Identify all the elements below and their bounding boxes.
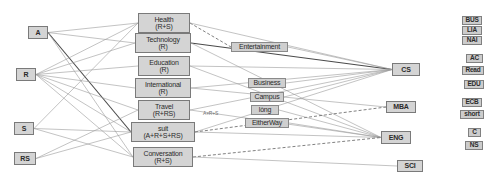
node-label-secondary: (R+RS) <box>153 110 175 117</box>
node-label-primary: Travel <box>155 103 173 110</box>
node-label: short <box>464 111 479 118</box>
node-label: R <box>24 71 29 78</box>
edge-health-to-CS <box>190 23 392 70</box>
node-label-primary: Health <box>154 16 173 23</box>
dest-node-cs[interactable]: CS <box>392 63 420 76</box>
edge-technology-to-CS <box>191 43 392 70</box>
edge-annotation-suit-edge-note: A+R+S <box>203 110 218 116</box>
middle-node-suit[interactable]: suit(A+R+S+RS) <box>131 122 195 142</box>
edge-business-to-CS <box>286 70 392 84</box>
edge-S-to-conversation <box>34 129 133 158</box>
middle-label-entertainment[interactable]: Entertainment <box>231 42 288 52</box>
node-label: EitherWay <box>252 119 282 126</box>
edge-campus-to-CS <box>284 70 392 98</box>
node-label: EDU <box>467 81 480 88</box>
edge-R-to-suit <box>36 75 131 133</box>
edge-international-to-CS <box>191 70 392 89</box>
node-label: AC <box>470 55 479 62</box>
legend-item-nai[interactable]: NAI <box>462 36 482 45</box>
middle-label-long[interactable]: lòng <box>251 105 279 115</box>
source-node-s[interactable]: S <box>14 122 34 135</box>
legend-item-ns[interactable]: NS <box>465 141 483 150</box>
node-label-primary: suit <box>158 125 168 132</box>
legend-item-lia[interactable]: LIA <box>462 26 482 35</box>
edge-R-to-education <box>36 66 138 75</box>
edge-conversation-to-ENG <box>193 138 381 158</box>
dest-node-eng[interactable]: ENG <box>381 131 411 144</box>
node-label: ENG <box>389 134 404 141</box>
node-label-secondary: (R) <box>158 43 167 50</box>
edge-S-to-health <box>34 23 138 129</box>
edge-layer <box>0 0 489 185</box>
middle-node-conversation[interactable]: Conversation(R+S) <box>133 147 193 167</box>
edge-A-to-health <box>48 23 138 33</box>
node-label: MBA <box>393 103 408 110</box>
node-label: Read <box>465 67 480 74</box>
legend-item-c[interactable]: C <box>468 128 481 137</box>
node-label: CS <box>401 66 410 73</box>
source-node-rs[interactable]: RS <box>14 152 36 165</box>
source-node-a[interactable]: A <box>28 26 48 39</box>
node-label: lòng <box>259 106 271 113</box>
node-label: Entertainment <box>239 43 280 50</box>
node-label-secondary: (R) <box>159 66 168 73</box>
node-label-secondary: (R+S) <box>154 157 171 164</box>
middle-node-travel[interactable]: Travel(R+RS) <box>138 100 190 120</box>
node-label-primary: Conversation <box>144 150 183 157</box>
node-label-primary: International <box>145 81 181 88</box>
edge-suit-to-MBA <box>195 107 386 132</box>
node-label-secondary: (R+S) <box>155 23 172 30</box>
node-label: RS <box>20 155 29 162</box>
edge-A-to-conversation <box>48 33 133 158</box>
edge-conversation-to-SCI <box>193 157 397 166</box>
middle-label-business[interactable]: Business <box>248 78 286 88</box>
node-label-secondary: (A+R+S+RS) <box>143 132 182 139</box>
node-label: BUS <box>465 17 478 24</box>
legend-item-short[interactable]: short <box>460 110 484 119</box>
node-label-primary: Education <box>149 59 178 66</box>
legend-item-read[interactable]: Read <box>462 66 484 75</box>
middle-node-international[interactable]: International(R) <box>135 78 191 98</box>
node-label-secondary: (R) <box>158 88 167 95</box>
legend-item-ecb[interactable]: ECB <box>462 98 482 107</box>
node-label: ECB <box>465 99 478 106</box>
node-label: LIA <box>467 27 477 34</box>
middle-label-eitherway[interactable]: EitherWay <box>245 118 289 128</box>
edge-R-to-technology <box>36 43 135 75</box>
node-label: S <box>22 125 26 132</box>
node-label: SCI <box>404 162 415 169</box>
middle-node-technology[interactable]: Technology(R) <box>135 33 191 53</box>
node-label: A <box>36 29 41 36</box>
diagram-canvas: ARSRSHealth(R+S)Technology(R)Education(R… <box>0 0 489 185</box>
node-label-primary: Technology <box>146 36 179 43</box>
source-node-r[interactable]: R <box>16 68 36 81</box>
legend-item-edu[interactable]: EDU <box>464 80 484 89</box>
node-label: Business <box>254 79 281 86</box>
node-label: NAI <box>467 37 478 44</box>
node-label: C <box>472 129 477 136</box>
node-label: NS <box>470 142 479 149</box>
node-label: Campus <box>255 93 280 100</box>
middle-label-campus[interactable]: Campus <box>250 92 284 102</box>
legend-item-ac[interactable]: AC <box>466 54 483 63</box>
legend-item-bus[interactable]: BUS <box>462 16 482 25</box>
middle-node-health[interactable]: Health(R+S) <box>138 13 190 33</box>
middle-node-education[interactable]: Education(R) <box>138 56 190 76</box>
edge-R-to-health <box>36 23 138 75</box>
edge-R-to-conversation <box>36 75 133 158</box>
edge-S-to-suit <box>34 129 131 133</box>
edge-A-to-technology <box>48 33 135 44</box>
dest-node-sci[interactable]: SCI <box>397 160 423 172</box>
edge-education-to-CS <box>190 66 392 70</box>
dest-node-mba[interactable]: MBA <box>386 101 416 113</box>
